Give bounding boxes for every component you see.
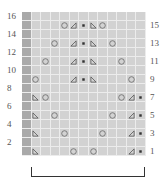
yarn-over-icon [42, 94, 49, 101]
yarn-over-icon [109, 112, 116, 119]
chart-cell [117, 111, 127, 120]
chart-cell [51, 93, 61, 102]
chart-cell [79, 102, 89, 111]
chart-cell [127, 48, 137, 57]
chart-cell [79, 75, 89, 84]
chart-cell [22, 12, 32, 21]
chart-cell [79, 21, 89, 30]
chart-cell [22, 57, 32, 66]
ssk-icon [32, 94, 39, 101]
chart-cell [22, 48, 32, 57]
chart-cell [70, 12, 80, 21]
chart-cell [60, 75, 70, 84]
chart-cell [41, 129, 51, 138]
chart-cell [60, 129, 70, 138]
row-number: 1 [150, 147, 155, 156]
chart-cell [60, 39, 70, 48]
chart-cell [32, 30, 42, 39]
chart-cell [51, 66, 61, 75]
chart-cell [41, 39, 51, 48]
chart-cell [89, 75, 99, 84]
chart-cell [89, 66, 99, 75]
chart-cell [79, 84, 89, 93]
k2tog-icon [128, 130, 135, 137]
chart-cell [117, 39, 127, 48]
chart-cell [108, 30, 118, 39]
chart-cell [89, 129, 99, 138]
chart-cell [70, 21, 80, 30]
chart-cell [51, 39, 61, 48]
chart-cell [22, 21, 32, 30]
chart-cell [32, 120, 42, 129]
yarn-over-icon [109, 40, 116, 47]
chart-cell [22, 93, 32, 102]
chart-cell [41, 147, 51, 156]
chart-cell [32, 48, 42, 57]
chart-cell [136, 75, 146, 84]
chart-cell [79, 120, 89, 129]
chart-cell [127, 75, 137, 84]
yarn-over-icon [32, 76, 39, 83]
chart-cell [51, 48, 61, 57]
chart-cell [32, 93, 42, 102]
chart-cell [70, 57, 80, 66]
chart-cell [127, 93, 137, 102]
chart-cell [32, 147, 42, 156]
chart-cell [108, 66, 118, 75]
chart-cell [136, 30, 146, 39]
chart-cell [98, 138, 108, 147]
chart-cell [98, 120, 108, 129]
chart-cell [117, 129, 127, 138]
chart-cell [117, 147, 127, 156]
ssk-icon [90, 76, 97, 83]
chart-cell [51, 21, 61, 30]
row-number: 13 [150, 39, 159, 48]
chart-cell [32, 129, 42, 138]
chart-cell [41, 111, 51, 120]
chart-cell [60, 138, 70, 147]
purl-dot-icon [137, 148, 144, 155]
chart-cell [98, 66, 108, 75]
chart-cell [22, 75, 32, 84]
chart-cell [51, 120, 61, 129]
k2tog-icon [70, 22, 77, 29]
chart-cell [22, 30, 32, 39]
yarn-over-icon [51, 40, 58, 47]
chart-cell [70, 138, 80, 147]
chart-cell [22, 102, 32, 111]
chart-cell [127, 129, 137, 138]
chart-cell [51, 129, 61, 138]
row-number: 11 [150, 57, 159, 66]
chart-cell [127, 147, 137, 156]
chart-cell [70, 129, 80, 138]
chart-cell [60, 93, 70, 102]
chart-cell [98, 147, 108, 156]
chart-cell [136, 138, 146, 147]
chart-cell [127, 39, 137, 48]
chart-cell [41, 66, 51, 75]
chart-cell [41, 12, 51, 21]
k2tog-icon [70, 40, 77, 47]
chart-cell [22, 120, 32, 129]
ssk-icon [32, 148, 39, 155]
row-number: 7 [150, 93, 155, 102]
row-number: 3 [150, 129, 155, 138]
chart-cell [89, 147, 99, 156]
chart-cell [117, 120, 127, 129]
chart-cell [32, 66, 42, 75]
chart-cell [70, 75, 80, 84]
k2tog-icon [128, 148, 135, 155]
yarn-over-icon [99, 22, 106, 29]
chart-cell [89, 120, 99, 129]
chart-cell [22, 129, 32, 138]
chart-cell [108, 138, 118, 147]
chart-cell [32, 84, 42, 93]
chart-cell [89, 39, 99, 48]
purl-dot-icon [137, 94, 144, 101]
chart-cell [79, 138, 89, 147]
ssk-icon [32, 112, 39, 119]
chart-cell [89, 111, 99, 120]
chart-cell [32, 138, 42, 147]
chart-cell [41, 120, 51, 129]
chart-cell [79, 147, 89, 156]
